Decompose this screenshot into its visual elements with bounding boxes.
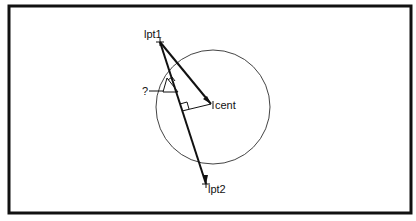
geometry-diagram: lpt1 lpt2 cent ?: [0, 0, 416, 221]
diagram-frame: [9, 6, 411, 213]
label-lpt1: lpt1: [144, 28, 162, 40]
line-lpt1-lpt2: [160, 42, 206, 184]
angle-triangle: [163, 78, 178, 92]
label-question: ?: [142, 85, 148, 97]
label-cent: cent: [215, 99, 236, 111]
perpendicular-line: [182, 104, 211, 111]
label-lpt2: lpt2: [208, 183, 226, 195]
